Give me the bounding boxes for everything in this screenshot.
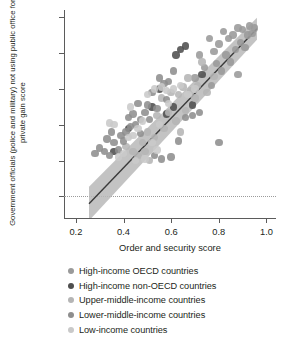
data-point: [191, 94, 198, 101]
data-point: [144, 101, 151, 108]
data-point: [106, 119, 113, 126]
data-point: [141, 155, 148, 162]
data-point: [203, 89, 210, 96]
data-point: [215, 40, 222, 47]
data-point: [153, 112, 160, 119]
legend-item-label: Upper-middle-income countries: [79, 295, 205, 305]
data-point: [210, 73, 217, 80]
legend-item-label: High-income OECD countries: [79, 266, 198, 276]
data-point: [184, 74, 191, 81]
data-point: [227, 58, 234, 65]
x-axis-tick: [219, 218, 220, 223]
data-point: [153, 146, 160, 153]
legend-item[interactable]: Upper-middle-income countries: [68, 293, 290, 308]
data-point: [151, 85, 158, 92]
data-point: [134, 100, 141, 107]
data-point: [198, 58, 205, 65]
legend-swatch-icon: [68, 283, 74, 289]
data-point: [215, 139, 222, 146]
data-point: [156, 74, 163, 81]
data-point: [125, 134, 132, 141]
legend-item-label: High-income non-OECD countries: [79, 281, 216, 291]
data-point: [91, 150, 98, 157]
data-point: [103, 135, 110, 142]
data-point: [144, 128, 151, 135]
data-point: [170, 67, 177, 74]
data-point: [129, 148, 136, 155]
data-point: [110, 139, 117, 146]
data-point: [191, 85, 198, 92]
x-axis-tick: [124, 218, 125, 223]
data-point: [127, 103, 134, 110]
plot-area: 00.20.40.60.81.0 0.20.40.60.81.0: [64, 10, 276, 218]
x-axis-tick: [266, 218, 267, 223]
data-point: [153, 105, 160, 112]
legend-item[interactable]: Lower-middle-income countries: [68, 308, 290, 323]
y-axis-title: Government officials (police and militar…: [8, 0, 27, 227]
data-point: [172, 117, 179, 124]
x-axis-tick-label: 0.2: [56, 227, 96, 237]
data-point: [175, 137, 182, 144]
legend-swatch-icon: [68, 312, 74, 318]
legend-swatch-icon: [68, 268, 74, 274]
legend-swatch-icon: [68, 327, 74, 333]
x-axis-tick: [76, 218, 77, 223]
data-point: [218, 67, 225, 74]
data-point: [184, 91, 191, 98]
x-axis-tick-label: 0.6: [151, 227, 191, 237]
legend-swatch-icon: [68, 297, 74, 303]
legend-item-label: Lower-middle-income countries: [79, 310, 205, 320]
legend-item[interactable]: High-income non-OECD countries: [68, 279, 290, 294]
x-axis-tick: [171, 218, 172, 223]
data-point: [210, 48, 217, 55]
data-point: [248, 30, 255, 37]
data-point: [134, 125, 141, 132]
data-point: [198, 71, 205, 78]
x-axis-tick-label: 0.8: [199, 227, 239, 237]
data-point: [172, 51, 179, 58]
data-point: [144, 91, 151, 98]
legend: High-income OECD countriesHigh-income no…: [68, 264, 290, 337]
data-point: [189, 101, 196, 108]
data-point: [141, 109, 148, 116]
y-axis-title-container: Government officials (police and militar…: [0, 0, 34, 228]
legend-item[interactable]: High-income OECD countries: [68, 264, 290, 279]
x-axis-title: Order and security score: [64, 243, 276, 253]
data-point: [234, 71, 241, 78]
data-point: [234, 24, 241, 31]
x-axis-tick-label: 0.4: [104, 227, 144, 237]
data-point: [241, 44, 248, 51]
scatter-plot-figure: Government officials (police and militar…: [0, 0, 290, 343]
legend-item-label: Low-income countries: [79, 325, 167, 335]
data-point: [158, 155, 165, 162]
data-point: [167, 153, 174, 160]
legend-item[interactable]: Low-income countries: [68, 322, 290, 337]
x-axis-tick-label: 1.0: [246, 227, 286, 237]
data-point: [177, 128, 184, 135]
